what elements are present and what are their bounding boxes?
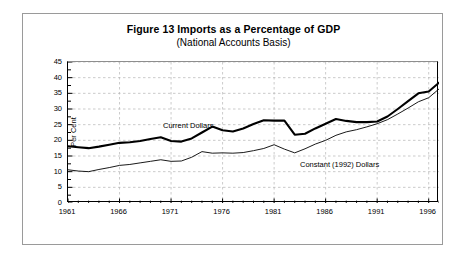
x-tick-label: 1981 [265, 207, 282, 216]
y-tick-label: 40 [46, 72, 62, 81]
x-tick-label: 1986 [316, 207, 333, 216]
x-tick-label: 1961 [59, 207, 76, 216]
x-tick-label: 1996 [419, 207, 436, 216]
x-tick-label: 1966 [110, 207, 127, 216]
x-tick-label: 1976 [213, 207, 230, 216]
y-tick-label: 20 [46, 135, 62, 144]
y-tick-label: 0 [46, 198, 62, 207]
y-tick-label: 35 [46, 88, 62, 97]
y-tick-label: 45 [46, 57, 62, 66]
y-tick-label: 15 [46, 151, 62, 160]
chart-canvas [68, 62, 439, 203]
y-tick-label: 25 [46, 119, 62, 128]
x-tick-label: 1971 [162, 207, 179, 216]
plot-wrap: Per Cent 051015202530354045 196119661971… [67, 61, 438, 202]
figure-frame: Figure 13 Imports as a Percentage of GDP… [22, 13, 443, 245]
series-label-current-dollars: Current Dollars [163, 121, 213, 130]
x-tick-label: 1991 [368, 207, 385, 216]
title-block: Figure 13 Imports as a Percentage of GDP… [23, 23, 444, 49]
y-tick-label: 10 [46, 166, 62, 175]
chart-title: Figure 13 Imports as a Percentage of GDP [23, 23, 444, 36]
plot-area [67, 61, 438, 202]
chart-subtitle: (National Accounts Basis) [23, 36, 444, 49]
y-tick-label: 5 [46, 182, 62, 191]
series-label-constant-dollars: Constant (1992) Dollars [300, 160, 379, 169]
y-tick-label: 30 [46, 104, 62, 113]
